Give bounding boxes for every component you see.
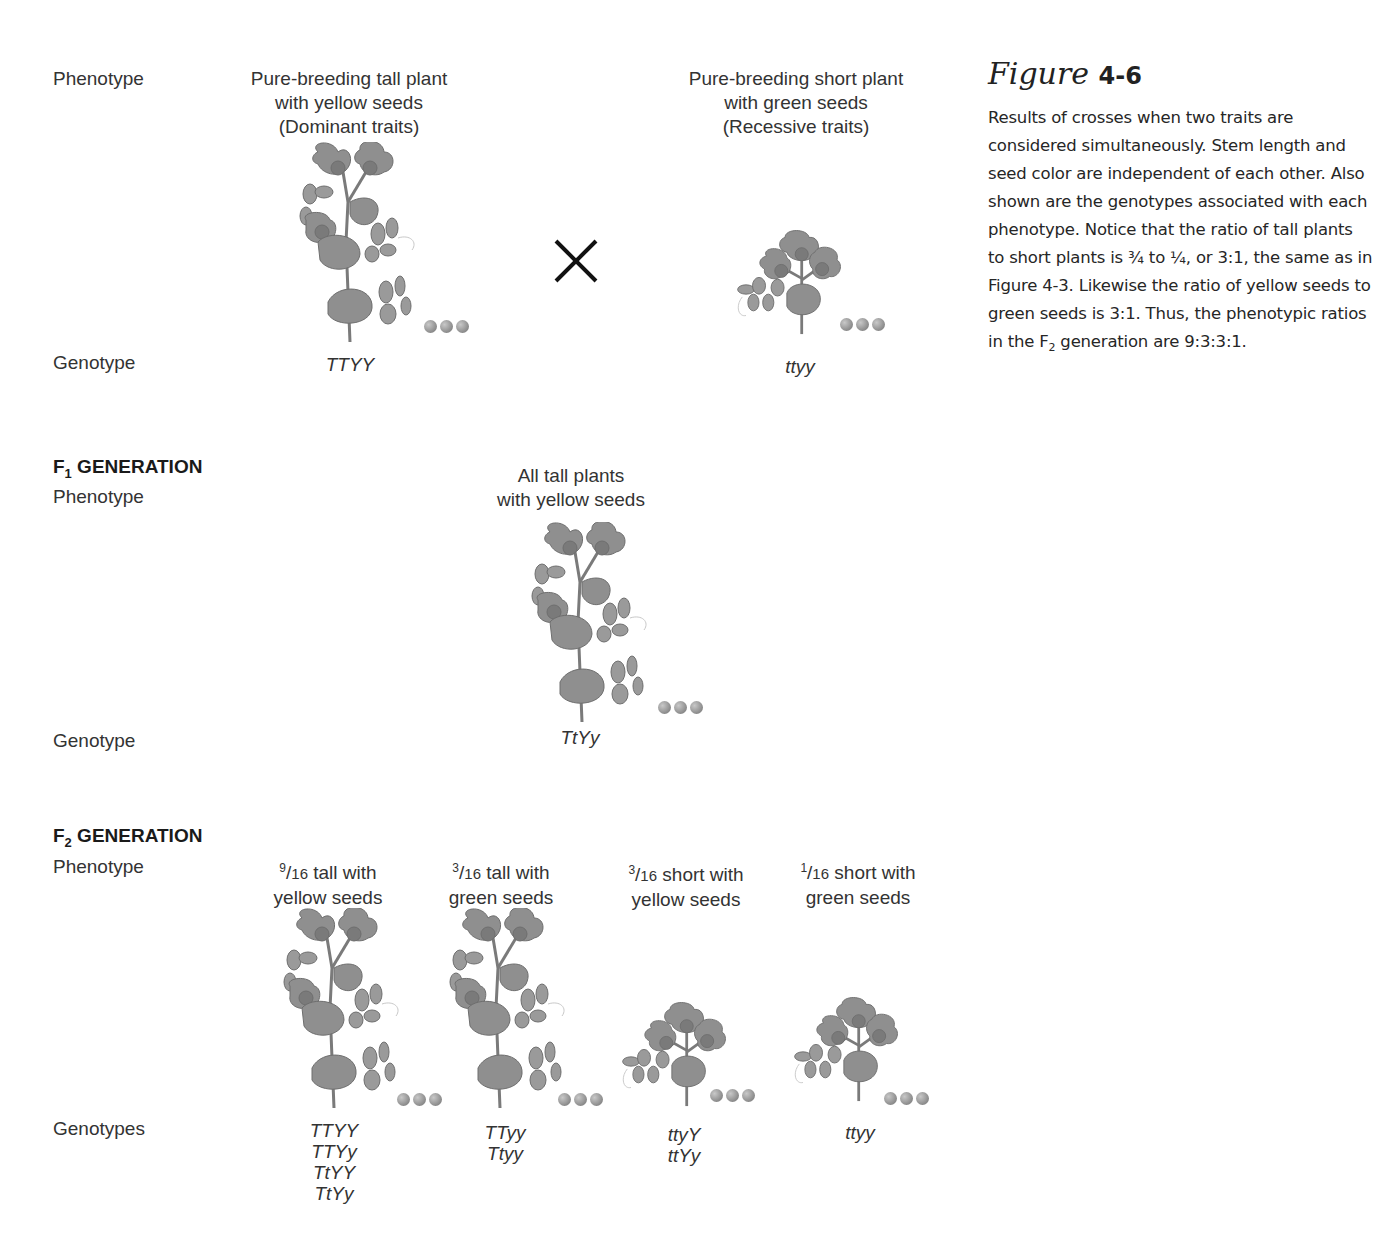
phenotype-line: green seeds — [421, 886, 581, 910]
dominant-parent-genotype: TTYY — [300, 354, 400, 375]
parental-phenotype-label: Phenotype — [53, 68, 144, 90]
figure-title: Figure 4-6 — [988, 56, 1142, 91]
f1-prefix: F — [53, 456, 65, 477]
phenotype-line: with yellow seeds — [219, 91, 479, 115]
f2-phenotype-2: 3/16 tall with green seeds — [421, 856, 581, 910]
tall-pea-plant-icon — [272, 908, 412, 1108]
genotype: ttyY — [634, 1124, 734, 1145]
genotype: TTyy — [455, 1122, 555, 1143]
fraction-denominator: 16 — [291, 865, 308, 882]
tall-pea-plant-icon — [288, 142, 428, 342]
genotype: Ttyy — [455, 1143, 555, 1164]
fraction-denominator: 16 — [464, 865, 481, 882]
f2-genotypes-label: Genotypes — [53, 1118, 145, 1140]
f1-subscript: 1 — [65, 466, 72, 481]
dominant-parent-phenotype: Pure-breeding tall plant with yellow see… — [219, 67, 479, 139]
genotype: TtYy — [284, 1183, 384, 1204]
generation-word: GENERATION — [72, 825, 203, 846]
figure-number: 4-6 — [1099, 62, 1142, 90]
phenotype-line: Pure-breeding tall plant — [219, 67, 479, 91]
f2-genotypes-2: TTyy Ttyy — [455, 1122, 555, 1164]
caption-text: Results of crosses when two traits are c… — [988, 108, 1372, 351]
yellow-seeds-icon — [397, 1093, 442, 1106]
green-seeds-icon — [558, 1093, 603, 1106]
figure-caption: Results of crosses when two traits are c… — [988, 104, 1373, 362]
green-seeds-icon — [840, 318, 885, 331]
phenotype-line: yellow seeds — [606, 888, 766, 912]
phenotype-line: tall with — [481, 862, 550, 883]
fraction-denominator: 16 — [812, 865, 829, 882]
f1-genotype-label: Genotype — [53, 730, 135, 752]
cross-icon — [552, 237, 600, 285]
genotype: ttyy — [810, 1122, 910, 1143]
short-pea-plant-icon — [790, 995, 920, 1105]
f2-prefix: F — [53, 825, 65, 846]
phenotype-line: short with — [657, 864, 744, 885]
f2-genotypes-1: TTYY TTYy TtYY TtYy — [284, 1120, 384, 1204]
tall-pea-plant-icon — [520, 522, 660, 722]
f1-phenotype-label: Phenotype — [53, 486, 144, 508]
phenotype-line: short with — [829, 862, 916, 883]
generation-word: GENERATION — [72, 456, 203, 477]
phenotype-line: Pure-breeding short plant — [666, 67, 926, 91]
caption-text-end: generation are 9:3:3:1. — [1055, 332, 1246, 351]
f2-phenotype-4: 1/16 short with green seeds — [778, 856, 938, 910]
genotype: TTYy — [284, 1141, 384, 1162]
parental-genotype-label: Genotype — [53, 352, 135, 374]
f2-generation-heading: F2 GENERATION — [53, 825, 202, 850]
phenotype-line: tall with — [308, 862, 377, 883]
yellow-seeds-icon — [658, 701, 703, 714]
fraction-denominator: 16 — [640, 867, 657, 884]
f2-phenotype-1: 9/16 tall with yellow seeds — [248, 856, 408, 910]
phenotype-line: (Dominant traits) — [219, 115, 479, 139]
phenotype-line: with green seeds — [666, 91, 926, 115]
tall-pea-plant-icon — [438, 908, 578, 1108]
f1-genotype: TtYy — [530, 727, 630, 748]
f1-phenotype: All tall plants with yellow seeds — [461, 464, 681, 512]
figure-title-script: Figure — [988, 56, 1089, 91]
phenotype-line: All tall plants — [461, 464, 681, 488]
genotype: TTYY — [284, 1120, 384, 1141]
genotype: ttYy — [634, 1145, 734, 1166]
phenotype-line: with yellow seeds — [461, 488, 681, 512]
phenotype-line: green seeds — [778, 886, 938, 910]
f2-genotypes-3: ttyY ttYy — [634, 1124, 734, 1166]
f2-phenotype-3: 3/16 short with yellow seeds — [606, 858, 766, 912]
f2-phenotype-label: Phenotype — [53, 856, 144, 878]
yellow-seeds-icon — [424, 320, 469, 333]
recessive-parent-phenotype: Pure-breeding short plant with green see… — [666, 67, 926, 139]
recessive-parent-genotype: ttyy — [750, 356, 850, 377]
f2-subscript: 2 — [65, 835, 72, 850]
yellow-seeds-icon — [710, 1089, 755, 1102]
genotype: TtYY — [284, 1162, 384, 1183]
f1-generation-heading: F1 GENERATION — [53, 456, 202, 481]
green-seeds-icon — [884, 1092, 929, 1105]
phenotype-line: yellow seeds — [248, 886, 408, 910]
phenotype-line: (Recessive traits) — [666, 115, 926, 139]
f2-genotypes-4: ttyy — [810, 1122, 910, 1143]
